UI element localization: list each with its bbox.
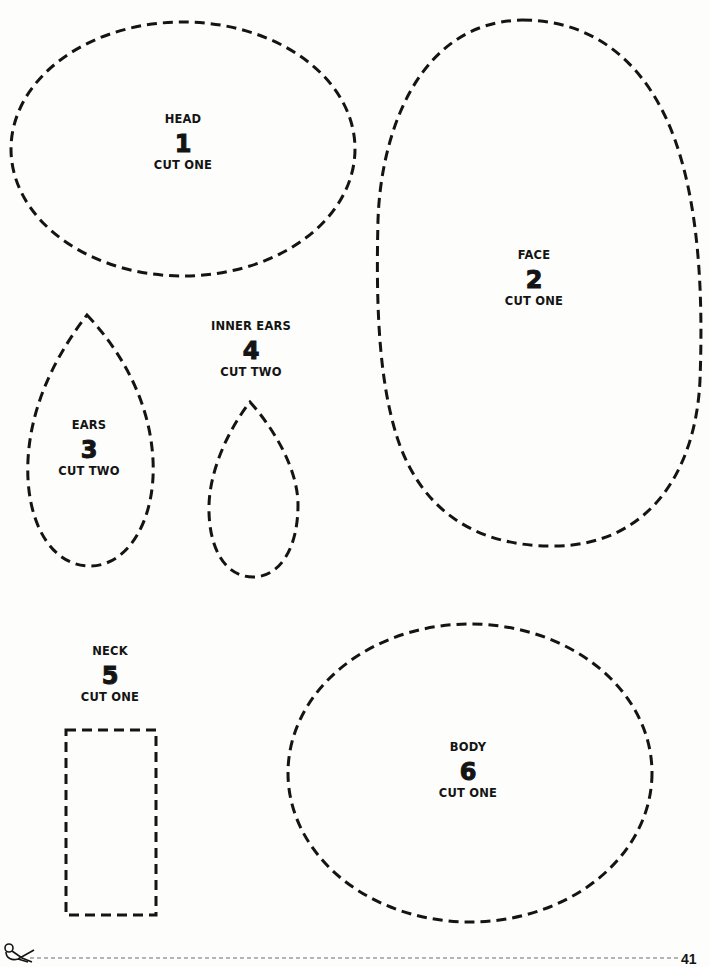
piece-quantity: CUT ONE (81, 692, 139, 704)
piece-quantity: CUT TWO (211, 367, 291, 379)
page-number: 41 (681, 951, 697, 967)
scissors-icon (2, 942, 36, 964)
piece-label-inner-ears: INNER EARS 4 CUT TWO (211, 321, 291, 378)
piece-number: 1 (154, 132, 212, 156)
pattern-page: HEAD 1 CUT ONE FACE 2 CUT ONE EARS 3 CUT… (0, 0, 710, 967)
neck-outline (66, 730, 156, 915)
piece-label-body: BODY 6 CUT ONE (439, 742, 497, 799)
piece-quantity: CUT TWO (58, 466, 119, 478)
piece-number: 4 (211, 339, 291, 363)
inner-ears-outline (209, 402, 298, 577)
piece-name: INNER EARS (211, 321, 291, 333)
piece-quantity: CUT ONE (154, 160, 212, 172)
piece-name: BODY (439, 742, 497, 754)
pattern-shapes (0, 0, 710, 967)
piece-quantity: CUT ONE (505, 296, 563, 308)
piece-name: NECK (81, 646, 139, 658)
piece-quantity: CUT ONE (439, 788, 497, 800)
piece-name: EARS (58, 420, 119, 432)
piece-name: FACE (505, 250, 563, 262)
piece-label-head: HEAD 1 CUT ONE (154, 114, 212, 171)
piece-label-neck: NECK 5 CUT ONE (81, 646, 139, 703)
piece-number: 6 (439, 760, 497, 784)
piece-label-face: FACE 2 CUT ONE (505, 250, 563, 307)
piece-number: 5 (81, 664, 139, 688)
piece-number: 3 (58, 438, 119, 462)
piece-number: 2 (505, 268, 563, 292)
piece-label-ears: EARS 3 CUT TWO (58, 420, 119, 477)
piece-name: HEAD (154, 114, 212, 126)
